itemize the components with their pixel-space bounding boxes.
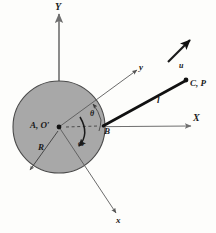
velocity-vector-u — [168, 40, 190, 62]
label-global-x-axis: X — [193, 113, 200, 123]
label-radius-r: R — [38, 143, 44, 152]
point-C-P-marker — [184, 78, 189, 83]
diagram-canvas — [0, 0, 216, 233]
label-body-y-axis: y — [139, 63, 143, 72]
label-angular-velocity-omega: ω — [78, 140, 84, 148]
label-body-x-axis: x — [116, 216, 121, 225]
label-point-b: B — [104, 127, 110, 136]
kinematics-diagram: Y X y x u C, P l B A, O′ R θ ω — [0, 0, 216, 233]
label-point-c-p: C, P — [190, 79, 206, 88]
label-velocity-u: u — [179, 62, 183, 70]
label-angle-theta: θ — [90, 110, 94, 118]
label-point-a-o-prime: A, O′ — [30, 121, 50, 130]
point-A-O-prime-marker — [57, 125, 62, 130]
label-global-y-axis: Y — [55, 2, 61, 12]
label-rod-length: l — [157, 96, 160, 105]
connecting-rod — [103, 81, 185, 126]
